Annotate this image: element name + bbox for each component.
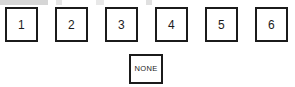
option-box-none[interactable]: NONE	[129, 54, 163, 84]
option-box-label: 3	[118, 19, 125, 31]
option-box-3[interactable]: 3	[105, 7, 138, 42]
option-box-label: 4	[168, 19, 175, 31]
option-box-1[interactable]: 1	[5, 7, 38, 42]
option-box-6[interactable]: 6	[255, 7, 288, 42]
option-box-label: 5	[218, 19, 225, 31]
option-box-5[interactable]: 5	[205, 7, 238, 42]
option-box-label: NONE	[135, 65, 158, 73]
option-box-label: 2	[68, 19, 75, 31]
option-box-label: 6	[268, 19, 275, 31]
diagram-canvas: 1 2 3 4 5 6 NONE	[0, 0, 295, 87]
option-box-4[interactable]: 4	[155, 7, 188, 42]
option-box-2[interactable]: 2	[55, 7, 88, 42]
scan-artifact	[0, 0, 295, 5]
option-box-label: 1	[18, 19, 25, 31]
